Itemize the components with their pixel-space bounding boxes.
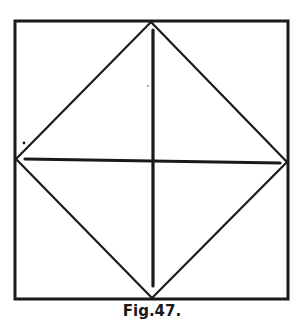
stray-dot (147, 85, 149, 87)
figure-caption: Fig.47. (0, 302, 304, 320)
figure-47-diagram (0, 0, 304, 333)
stray-dot (23, 142, 26, 145)
horizontal-axis-line (25, 159, 280, 163)
